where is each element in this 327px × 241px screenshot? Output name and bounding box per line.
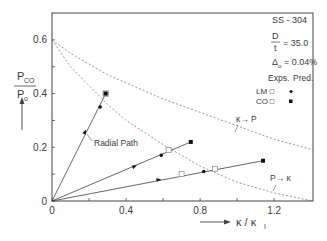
pred-filled-circle-marker (202, 170, 206, 174)
legend-label-co: CO (256, 97, 268, 106)
annotation-radial-path: Radial Path (94, 138, 138, 148)
legend-co-pred-filled-square-icon (289, 100, 293, 104)
legend-header-pred: Pred. (293, 73, 313, 83)
pred-filled-circle-marker (98, 105, 102, 109)
exp-open-square-marker (212, 166, 217, 171)
annotation-kappa-to-p: κ→ P (236, 114, 257, 124)
pred-filled-square-marker (104, 92, 108, 96)
y-axis-arrow-icon (20, 97, 25, 130)
x-label-sub: I (264, 223, 266, 230)
legend: Exps. Pred. LM CO (256, 73, 313, 106)
legend-co-exp-open-square-icon (270, 100, 274, 104)
pred-filled-square-marker (261, 159, 265, 163)
p-to-kappa-leader (273, 185, 276, 191)
info-box: SS - 304 D t = 35.0 Δ o = 0.04% (271, 15, 317, 69)
y-label-numerator-sub: CO (24, 77, 35, 84)
pred-filled-circle-marker (159, 154, 163, 158)
pred-filled-square-marker (189, 140, 193, 144)
x-axis-label: κ / κ I (200, 216, 266, 230)
chart-container: 00.40.81.200.20.40.6 P CO P o κ / κ I SS… (0, 0, 327, 241)
y-axis-label: P CO P o (14, 70, 36, 130)
axes-layer: 00.40.81.200.20.40.6 (33, 13, 313, 216)
x-tick-label: 1.2 (267, 205, 281, 216)
y-tick-label: 0 (41, 196, 47, 207)
exp-open-square-marker (166, 147, 171, 152)
radial-path-leader (87, 134, 92, 141)
material-label: SS - 304 (272, 15, 307, 25)
path-direction-arrow-icon (156, 177, 162, 181)
x-label-text: κ / κ (236, 216, 257, 228)
legend-label-lm: LM (256, 87, 267, 96)
x-tick-label: 0.4 (119, 205, 133, 216)
x-axis-arrow-icon (200, 220, 231, 225)
legend-lm-pred-filled-circle-icon (290, 90, 293, 93)
exp-open-square-marker (179, 172, 184, 177)
y-tick-label: 0.6 (33, 34, 47, 45)
legend-header-exps: Exps. (268, 73, 289, 83)
y-tick-label: 0.4 (33, 88, 47, 99)
legend-lm-exp-open-square-icon (270, 90, 274, 94)
d-over-t-denominator: t (274, 43, 277, 53)
delta-sub: o (278, 63, 282, 69)
y-label-denominator-sub: o (24, 95, 28, 102)
chart-svg: 00.40.81.200.20.40.6 P CO P o κ / κ I SS… (0, 0, 327, 241)
d-over-t-value: = 35.0 (283, 38, 308, 48)
annotations: Radial Path κ→ P P→ κ (87, 114, 292, 191)
delta-value: = 0.04% (284, 57, 317, 67)
x-tick-label: 0 (49, 205, 55, 216)
y-tick-label: 0.2 (33, 142, 47, 153)
d-over-t-numerator: D (272, 31, 279, 41)
annotation-p-to-kappa: P→ κ (270, 173, 292, 183)
x-tick-label: 0.8 (193, 205, 207, 216)
